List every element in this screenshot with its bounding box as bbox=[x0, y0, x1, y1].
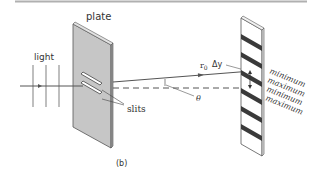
double-slit-diagram: plate light slits r0 θ Δy bbox=[0, 0, 319, 177]
slits-label: slits bbox=[127, 104, 146, 114]
plate-label: plate bbox=[86, 11, 111, 22]
theta-label: θ bbox=[196, 94, 201, 103]
ray-arrow-icon bbox=[198, 73, 204, 77]
delta-y-label: Δy bbox=[212, 60, 222, 69]
screen bbox=[241, 16, 264, 156]
panel-label: (b) bbox=[116, 159, 127, 168]
screen-labels: minimum maximum minimum maximum bbox=[264, 67, 307, 117]
plate bbox=[73, 22, 113, 148]
light-label: light bbox=[34, 52, 54, 62]
ray-r0 bbox=[113, 71, 252, 82]
light-arrow-icon bbox=[38, 84, 42, 88]
r0-label: r0 bbox=[200, 61, 208, 71]
